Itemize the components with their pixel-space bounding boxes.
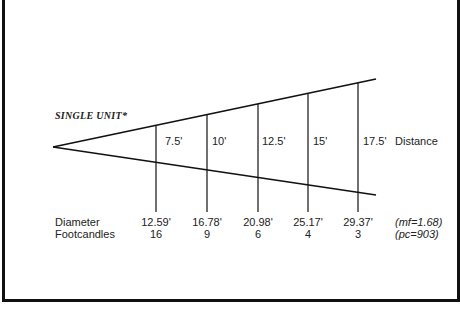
diameter-value: 29.37' xyxy=(343,216,373,228)
beam-spread-diagram: SINGLE UNIT* 7.5' 10' 12.5' 15' 17.5' Di… xyxy=(0,0,460,313)
diameter-label: Diameter xyxy=(55,216,100,228)
beam-lower-edge xyxy=(53,147,376,195)
diameter-value: 12.59' xyxy=(141,216,171,228)
footcandles-value: 9 xyxy=(204,228,210,240)
footcandles-value: 3 xyxy=(355,228,361,240)
distance-value: 12.5' xyxy=(262,135,286,147)
distance-value: 10' xyxy=(212,135,226,147)
diagram-title: SINGLE UNIT* xyxy=(55,110,127,122)
diameter-value: 25.17' xyxy=(293,216,323,228)
distance-value: 15' xyxy=(313,135,327,147)
distance-value: 7.5' xyxy=(165,135,182,147)
footcandles-value: 16 xyxy=(150,228,162,240)
diameter-value: 20.98' xyxy=(243,216,273,228)
footcandles-value: 6 xyxy=(255,228,261,240)
footcandles-label: Footcandles xyxy=(55,228,115,240)
pc-note: (pc=903) xyxy=(395,228,439,240)
beam-cone-drawing xyxy=(0,0,460,313)
footcandles-value: 4 xyxy=(305,228,311,240)
distance-label: Distance xyxy=(395,135,438,147)
distance-value: 17.5' xyxy=(363,135,387,147)
diameter-value: 16.78' xyxy=(192,216,222,228)
mf-note: (mf=1.68) xyxy=(395,216,442,228)
